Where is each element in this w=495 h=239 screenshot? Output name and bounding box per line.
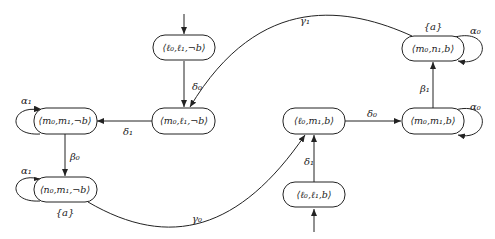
edge-label-c-c: α₁: [21, 95, 32, 106]
node-d: ⟨n₀,m₁,¬b⟩ {a}: [34, 177, 97, 218]
node-b-label: ⟨m₀,ℓ₁,¬b⟩: [160, 115, 208, 126]
node-d-label: ⟨n₀,m₁,¬b⟩: [40, 184, 90, 195]
edge-label-e-f: δ₀: [367, 108, 377, 119]
node-g-annotation: {a}: [424, 21, 443, 32]
edge-label-f-f: α₀: [470, 101, 481, 112]
node-b: ⟨m₀,ℓ₁,¬b⟩: [152, 108, 215, 134]
edge-label-b-c: δ₁: [123, 126, 133, 137]
edge-label-f-g: β₁: [419, 83, 430, 94]
node-d-annotation: {a}: [56, 207, 75, 218]
node-g-label: ⟨m₀,n₁,b⟩: [412, 43, 454, 54]
node-a-label: ⟨ℓ₀,ℓ₁,¬b⟩: [162, 42, 205, 53]
node-f: ⟨m₀,m₁,b⟩: [402, 108, 464, 134]
node-f-label: ⟨m₀,m₁,b⟩: [410, 115, 455, 126]
edge-label-g-b: γ₁: [300, 15, 310, 26]
edge-label-c-d: β₀: [69, 151, 80, 162]
edge-label-d-e: γ₀: [192, 213, 202, 224]
state-diagram: ⟨ℓ₀,ℓ₁,¬b⟩ ⟨m₀,ℓ₁,¬b⟩ ⟨m₀,m₁,¬b⟩ ⟨n₀,m₁,…: [0, 0, 495, 239]
node-a: ⟨ℓ₀,ℓ₁,¬b⟩: [153, 35, 215, 60]
node-h-label: ⟨ℓ₀,ℓ₁,b⟩: [296, 189, 331, 200]
edge-label-g-g: α₀: [470, 25, 481, 36]
edge-label-a-b: δ₀: [192, 81, 202, 92]
edge-g-b: [190, 15, 412, 107]
node-g: ⟨m₀,n₁,b⟩ {a}: [402, 21, 464, 61]
node-h: ⟨ℓ₀,ℓ₁,b⟩: [283, 182, 345, 207]
node-e: ⟨ℓ₀,m₁,b⟩: [283, 108, 345, 134]
node-c: ⟨m₀,m₁,¬b⟩: [34, 108, 97, 134]
node-c-label: ⟨m₀,m₁,¬b⟩: [38, 115, 91, 126]
edge-label-d-d: α₁: [21, 165, 32, 176]
node-e-label: ⟨ℓ₀,m₁,b⟩: [294, 115, 334, 126]
edge-label-h-e: δ₁: [304, 156, 314, 167]
